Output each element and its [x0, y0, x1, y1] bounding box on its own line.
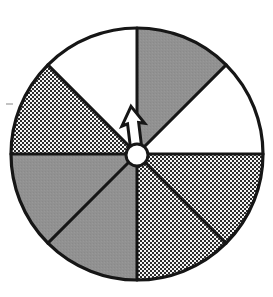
spinner-wheel[interactable] — [0, 0, 273, 297]
spinner-hub[interactable] — [126, 144, 148, 166]
spinner-figure — [0, 0, 273, 297]
scan-speck — [6, 103, 13, 105]
